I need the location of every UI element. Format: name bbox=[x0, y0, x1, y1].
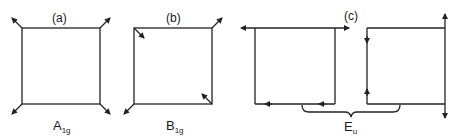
panel-b: (b) B1g bbox=[124, 11, 222, 135]
arrow-icon bbox=[12, 104, 22, 114]
panel-a-label: (a) bbox=[52, 11, 67, 25]
square-b bbox=[134, 28, 212, 104]
arrow-icon bbox=[202, 94, 212, 104]
arrow-icon bbox=[124, 104, 134, 114]
vibration-modes-diagram: (a) A1g (b) B1g (c) bbox=[0, 0, 458, 137]
mode-label-a: A1g bbox=[53, 118, 71, 135]
mode-label-c: Eu bbox=[344, 119, 357, 136]
brace bbox=[302, 105, 400, 117]
square-a bbox=[22, 28, 100, 104]
panel-a: (a) A1g bbox=[12, 11, 110, 135]
arrow-icon bbox=[100, 18, 110, 28]
panel-c-label: (c) bbox=[344, 9, 358, 23]
arrow-icon bbox=[100, 104, 110, 114]
arrow-icon bbox=[134, 28, 144, 38]
panel-c: (c) Eu bbox=[241, 9, 445, 136]
arrow-icon bbox=[212, 18, 222, 28]
panel-b-label: (b) bbox=[166, 11, 181, 25]
mode-label-b: B1g bbox=[166, 118, 184, 135]
arrow-icon bbox=[12, 18, 22, 28]
